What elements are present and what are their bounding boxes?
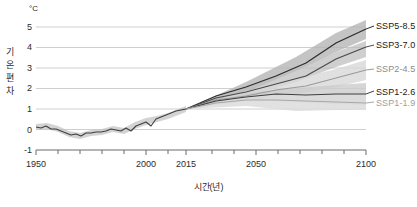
legend-item-ssp3-70[interactable]: SSP3-7.0 [376, 41, 415, 50]
legend-item-ssp1-19[interactable]: SSP1-1.9 [376, 99, 415, 108]
x-tick-label: 1950 [16, 160, 56, 169]
historical-uncertainty-band [36, 106, 186, 139]
x-tick-label: 2000 [126, 160, 166, 169]
legend-item-ssp1-26[interactable]: SSP1-2.6 [376, 88, 415, 97]
x-tick-label: 2050 [236, 160, 276, 169]
legend-item-ssp5-85[interactable]: SSP5-8.5 [376, 22, 415, 31]
x-tick-label: 2015 [166, 160, 206, 169]
x-axis-ticks [36, 150, 366, 155]
legend-leader-lines [366, 26, 374, 103]
climate-projection-chart: °C 기 온 편 차 5 4 3 2 1 0 -1 [0, 0, 417, 207]
x-axis-title: 시간(년) [0, 180, 417, 193]
legend-item-ssp2-45[interactable]: SSP2-4.5 [376, 65, 415, 74]
plot-area [0, 0, 417, 207]
x-tick-label: 2100 [346, 160, 386, 169]
